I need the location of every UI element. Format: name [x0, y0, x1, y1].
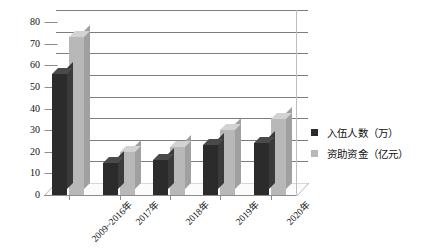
y-axis-tick-label: 70: [30, 39, 40, 49]
y-axis-tick-label: 0: [35, 190, 40, 200]
bar-side-face: [286, 107, 292, 189]
bar-front-face: [203, 145, 218, 195]
x-axis-tick-label: 2018年: [184, 200, 211, 227]
grid-line: [56, 10, 308, 11]
x-axis-tick-label: 2017年: [134, 200, 161, 227]
y-axis-tick-label: 40: [30, 104, 40, 114]
bar-side-face: [235, 118, 241, 189]
y-axis-tick-label: 60: [30, 60, 40, 70]
bar-series-0[interactable]: [153, 160, 168, 195]
x-axis-tick: [170, 196, 171, 200]
y-axis-tick-label: 30: [30, 125, 40, 135]
bar-series-0[interactable]: [254, 143, 269, 195]
bar-group: [203, 22, 235, 195]
bar-front-face: [153, 160, 168, 195]
x-axis-tick: [120, 196, 121, 200]
bar-side-face: [84, 25, 90, 189]
bar-side-face: [67, 62, 73, 189]
y-axis-tick-label: 10: [30, 168, 40, 178]
x-axis-tick-label: 2019年: [235, 200, 262, 227]
bar-front-face: [103, 163, 118, 195]
bar-group: [52, 22, 84, 195]
plot-right-edge: [296, 10, 297, 196]
y-axis-tick-label: 20: [30, 147, 40, 157]
bars-layer: [44, 22, 296, 195]
y-axis-tick-label: 50: [30, 82, 40, 92]
bar-chart: 01020304050607080 2009~2016年2017年2018年20…: [0, 0, 436, 251]
bar-group: [153, 22, 185, 195]
bar-group: [103, 22, 135, 195]
legend-label-series-0: 入伍人数（万）: [327, 125, 398, 140]
bar-front-face: [254, 143, 269, 195]
x-axis-tick-label: 2020年: [285, 200, 312, 227]
legend-item-0[interactable]: 入伍人数（万）: [311, 122, 409, 143]
bar-series-0[interactable]: [103, 163, 118, 195]
x-axis-tick: [69, 196, 70, 200]
bar-group: [254, 22, 286, 195]
legend-label-series-1: 资助资金（亿元）: [327, 146, 409, 161]
x-axis-tick-label: 2009~2016年: [91, 200, 135, 244]
x-axis-tick: [220, 196, 221, 200]
legend-swatch-icon-series-1: [311, 150, 318, 157]
x-axis-labels: 2009~2016年2017年2018年2019年2020年: [44, 196, 309, 251]
bar-series-0[interactable]: [52, 74, 67, 195]
chart-legend: 入伍人数（万） 资助资金（亿元）: [311, 122, 409, 164]
bar-front-face: [52, 74, 67, 195]
bar-series-0[interactable]: [203, 145, 218, 195]
x-axis-tick: [271, 196, 272, 200]
legend-item-1[interactable]: 资助资金（亿元）: [311, 143, 409, 164]
y-axis-tick-label: 80: [30, 17, 40, 27]
legend-swatch-icon-series-0: [311, 129, 318, 136]
